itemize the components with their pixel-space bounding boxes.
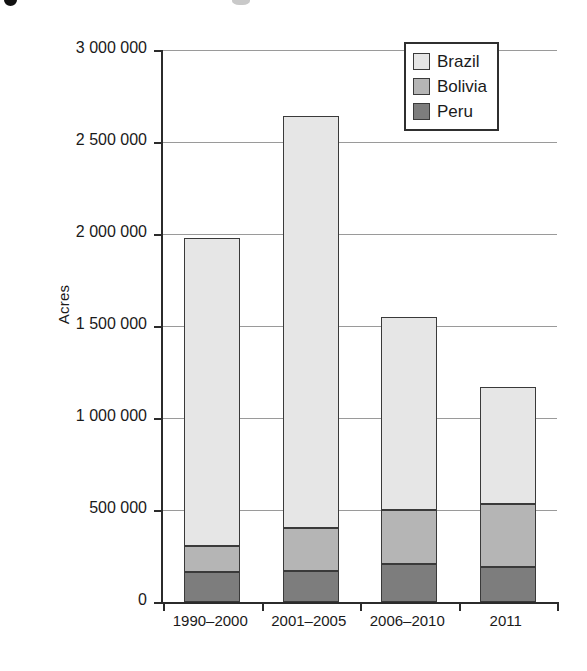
bar-stack [381, 317, 437, 602]
x-tick-mark [360, 602, 362, 611]
bar-segment-bolivia [283, 528, 339, 570]
bar-segment-bolivia [184, 546, 240, 572]
legend-item-peru: Peru [413, 99, 487, 124]
x-tick-mark [262, 602, 264, 611]
bar-segment-brazil [184, 238, 240, 546]
gridline [163, 142, 557, 143]
x-tick-mark [163, 602, 165, 611]
plot-area [161, 50, 557, 604]
legend-item-bolivia: Bolivia [413, 74, 487, 99]
caption-bullet-fragment [4, 0, 17, 6]
legend-label-brazil: Brazil [437, 53, 480, 70]
chart-legend: Brazil Bolivia Peru [404, 42, 499, 131]
y-tick-mark [154, 418, 163, 420]
bar-stack [184, 238, 240, 602]
y-tick-mark [154, 50, 163, 52]
y-tick-mark [154, 602, 163, 604]
y-axis-title: Acres [55, 260, 72, 350]
chart-figure: Acres 0500 0001 000 0001 500 0002 000 00… [0, 0, 587, 671]
bar-segment-bolivia [480, 504, 536, 567]
bar-stack [283, 116, 339, 602]
gridline [163, 234, 557, 235]
legend-item-brazil: Brazil [413, 49, 487, 74]
x-tick-label: 2011 [446, 612, 566, 629]
y-tick-mark [154, 510, 163, 512]
caption-text-fragment [232, 0, 250, 5]
y-tick-mark [154, 326, 163, 328]
bar-segment-peru [184, 572, 240, 602]
legend-swatch-icon-brazil [413, 53, 430, 70]
y-tick-mark [154, 142, 163, 144]
bar-segment-peru [283, 571, 339, 602]
bar-stack [480, 387, 536, 602]
bar-segment-bolivia [381, 510, 437, 564]
cropped-caption-artifact [4, 0, 584, 8]
x-tick-mark [557, 602, 559, 611]
bar-segment-peru [480, 567, 536, 602]
bar-segment-brazil [381, 317, 437, 510]
legend-swatch-icon-bolivia [413, 78, 430, 95]
y-tick-mark [154, 234, 163, 236]
legend-label-peru: Peru [437, 103, 473, 120]
x-tick-mark [459, 602, 461, 611]
legend-label-bolivia: Bolivia [437, 78, 487, 95]
bar-segment-brazil [480, 387, 536, 504]
bar-segment-peru [381, 564, 437, 602]
legend-swatch-icon-peru [413, 103, 430, 120]
bar-segment-brazil [283, 116, 339, 528]
